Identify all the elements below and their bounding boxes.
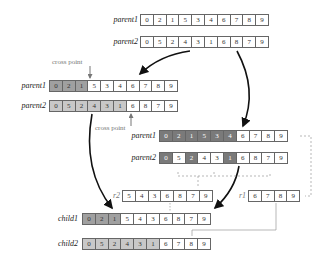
gene-cell: 0 [159, 130, 173, 142]
gene-cell: 7 [172, 238, 186, 250]
child1-label: child1 [40, 214, 78, 223]
gene-cell: 1 [166, 14, 180, 26]
r1-label: r1 [234, 191, 246, 200]
gene-cell: 4 [120, 238, 134, 250]
gene-cell: 3 [191, 36, 205, 48]
gene-cell: 2 [62, 80, 76, 92]
gene-cell: 2 [108, 238, 122, 250]
crossover-parent1-label: parent1 [6, 81, 46, 90]
top-parent2-row: 0524316879 [140, 36, 269, 48]
gene-cell: 0 [140, 36, 154, 48]
gene-cell: 0 [159, 152, 173, 164]
gene-cell: 9 [274, 130, 288, 142]
gene-cell: 9 [164, 80, 178, 92]
gene-cell: 9 [197, 213, 211, 225]
gene-cell: 6 [126, 80, 140, 92]
gene-cell: 6 [217, 36, 231, 48]
gene-cell: 3 [191, 14, 205, 26]
gene-cell: 3 [133, 238, 147, 250]
gene-cell: 8 [139, 100, 153, 112]
gene-cell: 2 [166, 36, 180, 48]
gene-cell: 5 [120, 213, 134, 225]
gene-cell: 0 [49, 100, 63, 112]
gene-cell: 4 [133, 213, 147, 225]
gene-cell: 9 [197, 238, 211, 250]
gene-cell: 7 [242, 36, 256, 48]
gene-cell: 3 [210, 152, 224, 164]
gene-cell: 0 [82, 213, 96, 225]
gene-cell: 6 [159, 238, 173, 250]
gene-cell: 4 [87, 100, 101, 112]
gene-cell: 8 [249, 152, 263, 164]
gene-cell: 5 [197, 130, 211, 142]
gene-cell: 7 [151, 100, 165, 112]
gene-cell: 7 [230, 14, 244, 26]
gene-cell: 5 [172, 152, 186, 164]
gene-cell: 6 [126, 100, 140, 112]
arrow-marked-to-child1 [215, 166, 239, 208]
gene-cell: 8 [274, 190, 288, 202]
gene-cell: 4 [113, 80, 127, 92]
marked-parent2-label: parent2 [118, 153, 156, 162]
gene-cell: 5 [178, 14, 192, 26]
gene-cell: 4 [135, 190, 149, 202]
gene-cell: 4 [178, 36, 192, 48]
gene-cell: 1 [223, 152, 237, 164]
crossover-parent2-row: 0524316879 [49, 100, 178, 112]
gene-cell: 1 [185, 130, 199, 142]
gene-cell: 6 [236, 152, 250, 164]
gene-cell: 9 [274, 152, 288, 164]
gene-cell: 6 [160, 190, 174, 202]
gene-cell: 3 [210, 130, 224, 142]
marked-parent2-row: 0524316879 [159, 152, 288, 164]
gene-cell: 6 [217, 14, 231, 26]
gene-cell: 4 [204, 14, 218, 26]
gene-cell: 0 [140, 14, 154, 26]
gene-cell: 2 [75, 100, 89, 112]
child2-row: 0524316789 [82, 238, 211, 250]
gene-cell: 6 [159, 213, 173, 225]
top-parent1-row: 0215346789 [140, 14, 269, 26]
gene-cell: 1 [108, 213, 122, 225]
child2-label: child2 [40, 239, 78, 248]
top-parent1-label: parent1 [100, 15, 138, 24]
gene-cell: 8 [151, 80, 165, 92]
gene-cell: 0 [49, 80, 63, 92]
arrow-top-to-marked [237, 51, 249, 126]
gene-cell: 0 [82, 238, 96, 250]
gene-cell: 8 [173, 190, 187, 202]
gene-cell: 5 [95, 238, 109, 250]
gene-cell: 7 [261, 190, 275, 202]
gene-cell: 8 [230, 36, 244, 48]
r2-label: r2 [108, 191, 120, 200]
gene-cell: 6 [248, 190, 262, 202]
gene-cell: 3 [146, 213, 160, 225]
gene-cell: 9 [164, 100, 178, 112]
gene-cell: 3 [100, 100, 114, 112]
crossover-parent2-label: parent2 [6, 101, 46, 110]
gene-cell: 6 [236, 130, 250, 142]
gene-cell: 5 [87, 80, 101, 92]
marked-parent1-label: parent1 [118, 131, 156, 140]
gene-cell: 1 [146, 238, 160, 250]
gene-cell: 5 [153, 36, 167, 48]
gene-cell: 5 [122, 190, 136, 202]
gene-cell: 2 [185, 152, 199, 164]
gene-cell: 5 [62, 100, 76, 112]
gene-cell: 2 [95, 213, 109, 225]
gene-cell: 2 [153, 14, 167, 26]
child1-row: 0215436879 [82, 213, 211, 225]
gene-cell: 9 [255, 14, 269, 26]
gene-cell: 9 [286, 190, 300, 202]
r2-row: 5436879 [122, 190, 213, 202]
gene-cell: 1 [113, 100, 127, 112]
gene-cell: 4 [223, 130, 237, 142]
gene-cell: 9 [199, 190, 213, 202]
gene-cell: 7 [261, 152, 275, 164]
gene-cell: 2 [172, 130, 186, 142]
r1-row: 6789 [248, 190, 300, 202]
gene-cell: 7 [186, 190, 200, 202]
gene-cell: 3 [100, 80, 114, 92]
gene-cell: 8 [242, 14, 256, 26]
gene-cell: 1 [204, 36, 218, 48]
